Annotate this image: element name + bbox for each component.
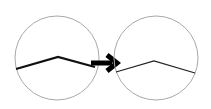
transformation-diagram — [0, 0, 211, 109]
